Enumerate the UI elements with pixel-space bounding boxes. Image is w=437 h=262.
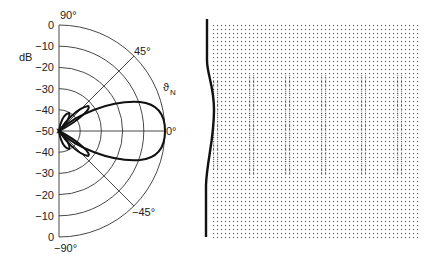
angle-label-minus90: −90° [54,242,77,254]
45-deg-axis [59,56,134,131]
minus45-deg-axis [59,131,134,206]
tick-lower-20: −20 [35,189,54,201]
tick-upper-30: −30 [35,83,54,95]
tick-upper-10: −10 [35,40,54,52]
angle-label-0: 0° [166,125,177,137]
angle-subscript: N [170,88,176,97]
tick-center-50: −50 [35,125,54,137]
tick-lower-0: 0 [48,231,54,243]
wave-field-panel [206,19,420,239]
tick-lower-40: −40 [35,146,54,158]
diagram-canvas: 90° 45° 0° −45° −90° dB ϑ N 0 −10 −20 −3… [0,0,437,262]
angle-label-minus45: −45° [132,206,155,218]
angle-label-45: 45° [134,45,151,57]
tick-upper-0: 0 [48,19,54,31]
tick-lower-30: −30 [35,167,54,179]
polar-labels: 90° 45° 0° −45° −90° dB ϑ N 0 −10 −20 −3… [19,9,177,254]
unit-label: dB [19,51,32,63]
tick-lower-10: −10 [35,210,54,222]
tick-upper-20: −20 [35,61,54,73]
dot-grid [212,24,420,239]
angle-symbol: ϑ [163,81,169,93]
tick-upper-40: −40 [35,104,54,116]
angle-label-90: 90° [60,9,77,21]
